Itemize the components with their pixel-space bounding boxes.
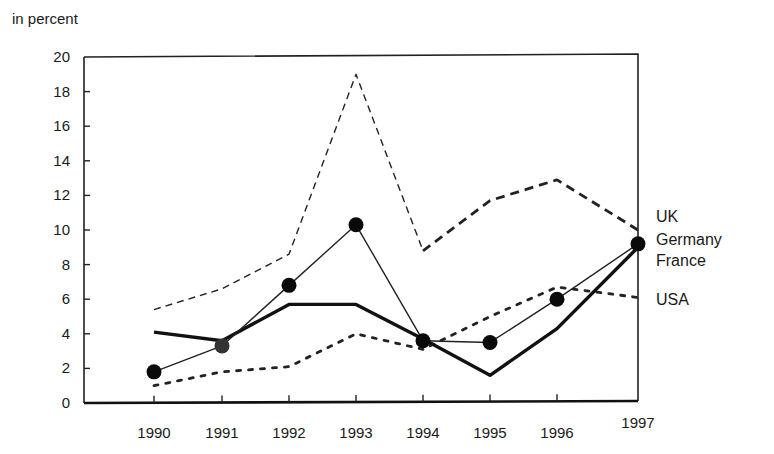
- germany-marker: [147, 364, 162, 379]
- x-axis-line: [84, 401, 638, 403]
- y-tick-label: 4: [62, 325, 70, 342]
- y-tick-label: 18: [53, 83, 70, 100]
- y-tick-label: 12: [53, 186, 70, 203]
- x-tick-label: 1991: [205, 424, 238, 441]
- y-tick-label: 20: [53, 48, 70, 65]
- y-tick-label: 6: [62, 290, 70, 307]
- germany-marker: [631, 236, 646, 251]
- line-chart: 02468101214161820 1990199119921993199419…: [0, 0, 774, 454]
- series-uk-thick: [423, 180, 638, 251]
- y-tick-label: 2: [62, 359, 70, 376]
- legend-france: France: [656, 252, 706, 269]
- series-lines: [147, 74, 646, 385]
- y-tick-label: 14: [53, 152, 70, 169]
- legend-germany: Germany: [656, 231, 722, 248]
- germany-marker: [215, 338, 230, 353]
- x-tick-label: 1992: [272, 424, 305, 441]
- x-tick-label: 1993: [339, 424, 372, 441]
- y-tick-label: 8: [62, 256, 70, 273]
- series-france: [154, 247, 638, 375]
- germany-marker: [483, 335, 498, 350]
- germany-marker: [416, 333, 431, 348]
- x-tick-label: 1994: [406, 424, 439, 441]
- series-uk-thin: [154, 74, 423, 309]
- x-tick-label: 1995: [473, 424, 506, 441]
- legend-uk: UK: [656, 208, 679, 225]
- x-tick-label: 1990: [137, 424, 170, 441]
- y-tick-label: 0: [62, 394, 70, 411]
- x-tick-label: 1997: [621, 414, 654, 431]
- germany-marker: [349, 217, 364, 232]
- germany-marker: [282, 278, 297, 293]
- x-tick-label: 1996: [540, 424, 573, 441]
- legend: UKGermanyFranceUSA: [656, 208, 722, 308]
- germany-marker: [550, 292, 565, 307]
- y-tick-label: 10: [53, 221, 70, 238]
- legend-usa: USA: [656, 291, 689, 308]
- y-tick-label: 16: [53, 117, 70, 134]
